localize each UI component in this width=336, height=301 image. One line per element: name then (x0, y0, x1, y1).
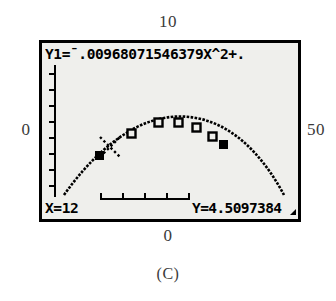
trace-y-readout: Y=4.5097384 (192, 198, 281, 218)
graph-plot-area[interactable] (42, 43, 298, 219)
data-point-open (128, 130, 136, 138)
axis-label-left: 0 (12, 120, 40, 140)
data-point-filled (95, 151, 104, 160)
y-axis-tick (49, 185, 54, 187)
calculator-screen[interactable]: Y1=¯.00968071546379X^2+. (39, 40, 301, 222)
figure-caption: (C) (0, 265, 336, 283)
y-axis-tick (49, 169, 54, 171)
y-axis-tick (49, 89, 54, 91)
axis-label-right: 50 (300, 120, 332, 140)
trace-x-readout: X=12 (45, 198, 78, 218)
y-axis-tick (49, 73, 54, 75)
calculator-screen-inner: Y1=¯.00968071546379X^2+. (42, 43, 298, 219)
y-axis-tick (49, 153, 54, 155)
y-axis-line (54, 65, 56, 197)
y-axis-tick (49, 137, 54, 139)
data-point-open (155, 119, 163, 127)
busy-indicator-icon (290, 209, 296, 215)
y-axis-tick (49, 121, 54, 123)
data-point-open (209, 133, 217, 141)
data-point-filled (219, 140, 228, 149)
axis-label-bottom: 0 (0, 226, 336, 246)
data-point-open (193, 124, 201, 132)
trace-status-line: X=12 Y=4.5097384 (42, 198, 298, 218)
data-point-open (175, 119, 183, 127)
axis-label-top: 10 (0, 12, 336, 32)
y-axis-tick (49, 105, 54, 107)
